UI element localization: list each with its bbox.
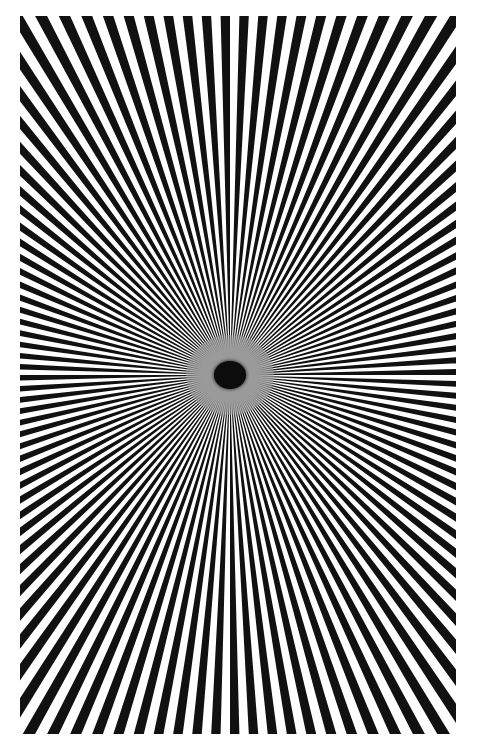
center-dark-spot xyxy=(214,361,246,389)
siemens-star-pattern xyxy=(20,16,456,734)
